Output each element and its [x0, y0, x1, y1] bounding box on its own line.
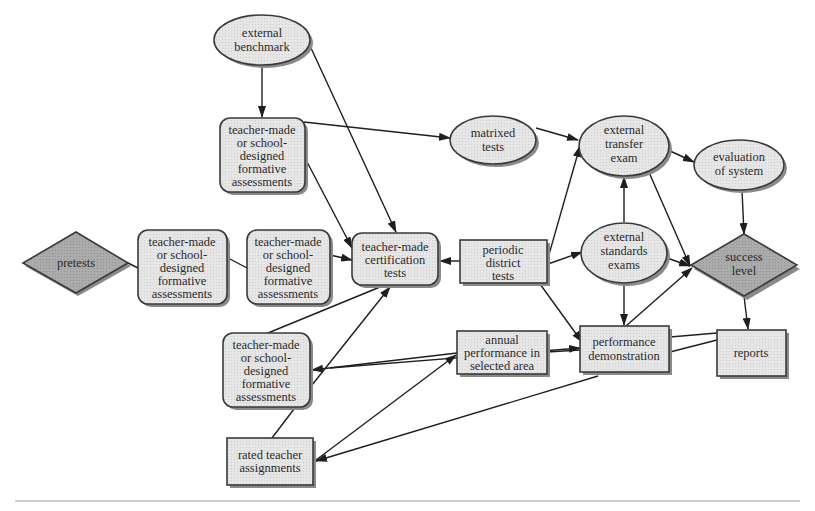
edge-district-to-standards: [548, 252, 582, 264]
node-label: teacher-made: [228, 123, 296, 137]
node-label: tests: [482, 140, 504, 154]
node-annual-performance: annual performance in selected area: [457, 331, 550, 377]
node-label: pretests: [57, 256, 95, 270]
node-label: designed: [266, 261, 311, 275]
edge-evaluation-to-success: [742, 190, 744, 234]
node-label: or school-: [241, 351, 291, 365]
node-label: transfer: [605, 137, 644, 151]
node-pretests: pretests: [23, 232, 131, 296]
node-label: district: [486, 256, 521, 270]
edge-district-to-transfer: [548, 146, 580, 258]
edge-rated-to-annual: [316, 355, 456, 460]
node-formative-assessments-bottom: teacher-made or school- designed formati…: [223, 333, 313, 410]
node-label: standards: [600, 244, 647, 258]
node-label: benchmark: [234, 40, 290, 54]
node-label: designed: [240, 149, 285, 163]
node-label: assessments: [258, 287, 319, 301]
node-label: teacher-made: [148, 235, 216, 249]
node-label: or school-: [237, 136, 287, 150]
node-label: or school-: [157, 248, 207, 262]
node-label: periodic: [483, 243, 524, 257]
node-periodic-district-tests: periodic district tests: [460, 240, 550, 286]
edge-success-to-reports: [744, 296, 748, 329]
node-label: exams: [608, 258, 640, 272]
edge-formative-left-to-middle: [228, 258, 247, 268]
edge-formative-middle-to-certification: [330, 255, 352, 260]
edge-performance-to-rated: [316, 376, 598, 461]
node-label: teacher-made: [254, 235, 322, 249]
node-external-transfer-exam: external transfer exam: [579, 116, 672, 179]
node-label: designed: [160, 261, 205, 275]
node-label: external: [242, 26, 283, 40]
node-label: selected area: [470, 359, 535, 373]
node-label: or school-: [263, 248, 313, 262]
node-label: teacher-made: [361, 240, 429, 254]
node-label: external: [604, 123, 645, 137]
node-evaluation-of-system: evaluation of system: [694, 140, 787, 193]
edge-transfer-to-evaluation: [668, 150, 694, 162]
node-label: evaluation: [713, 150, 766, 164]
edge-performance-to-reports-b: [670, 340, 717, 352]
edge-benchmark-to-certification: [311, 48, 396, 232]
node-label: demonstration: [588, 349, 660, 363]
node-label: tests: [492, 269, 514, 283]
edge-formative-top-to-matrixed: [304, 122, 450, 138]
node-external-standards-exams: external standards exams: [581, 223, 670, 286]
node-label: success: [725, 250, 763, 264]
node-rated-teacher-assignments: rated teacher assignments: [227, 438, 316, 488]
node-label: rated teacher: [238, 448, 303, 462]
node-label: assignments: [239, 461, 300, 475]
node-matrixed-tests: matrixed tests: [450, 116, 539, 167]
node-success-level: success level: [691, 234, 800, 300]
node-label: external: [604, 230, 645, 244]
edge-formative-bottom-to-rated: [272, 409, 294, 438]
node-label: tests: [384, 266, 406, 280]
node-label: assessments: [232, 175, 293, 189]
node-label: level: [732, 264, 757, 278]
node-label: performance: [592, 335, 656, 349]
node-label: exam: [610, 151, 637, 165]
node-label: formative: [158, 274, 207, 288]
node-label: formative: [238, 162, 287, 176]
node-formative-assessments-middle: teacher-made or school- designed formati…: [247, 230, 333, 307]
node-label: of system: [715, 164, 764, 178]
node-label: designed: [244, 364, 289, 378]
node-label: performance in: [464, 346, 541, 360]
node-label: matrixed: [471, 126, 516, 140]
node-formative-assessments-top: teacher-made or school- designed formati…: [220, 118, 308, 195]
node-external-benchmark: external benchmark: [214, 15, 313, 68]
node-formative-assessments-left: teacher-made or school- designed formati…: [138, 230, 230, 307]
node-label: teacher-made: [232, 338, 300, 352]
node-label: formative: [242, 377, 291, 391]
assessment-system-diagram: external benchmark teacher-made or schoo…: [0, 0, 815, 511]
node-certification-tests: teacher-made certification tests: [352, 233, 441, 288]
edge-matrixed-to-transfer: [536, 128, 578, 140]
node-label: annual: [485, 333, 519, 347]
node-label: assessments: [152, 287, 213, 301]
node-label: certification: [365, 253, 426, 267]
edge-performance-to-reports-a: [670, 333, 717, 337]
node-label: reports: [734, 346, 769, 360]
node-performance-demonstration: performance demonstration: [580, 326, 672, 375]
node-label: formative: [264, 274, 313, 288]
node-reports: reports: [717, 330, 789, 379]
node-label: assessments: [236, 390, 297, 404]
